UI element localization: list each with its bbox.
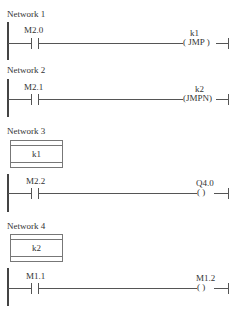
network-4-contact-left-bar bbox=[31, 283, 32, 294]
network-3-title: Network 3 bbox=[7, 126, 45, 136]
network-4-right-rail bbox=[228, 283, 229, 294]
network-3-contact-left-bar bbox=[31, 188, 32, 199]
network-2-contact-left-bar bbox=[31, 94, 32, 105]
network-2-wire bbox=[39, 99, 183, 100]
network-4-wire bbox=[39, 288, 197, 289]
network-2-right-rail bbox=[228, 94, 229, 105]
network-1-jmp-coil: ( JMP ) bbox=[183, 37, 210, 47]
network-2-jmpn-coil: (JMPN) bbox=[183, 93, 212, 103]
network-1-wire bbox=[216, 43, 228, 44]
network-4-jump-label-box: k2 bbox=[10, 234, 63, 262]
network-4-left-rail bbox=[7, 268, 9, 306]
network-3-jump-label-box: k1 bbox=[10, 140, 63, 168]
network-2-wire bbox=[8, 99, 31, 100]
network-4-output-coil: ( ) bbox=[197, 282, 205, 292]
network-3-contact-address: M2.2 bbox=[26, 176, 45, 186]
network-1-left-rail bbox=[7, 22, 9, 60]
network-3-wire bbox=[39, 193, 197, 194]
network-2-wire bbox=[216, 99, 228, 100]
network-4-wire bbox=[8, 288, 31, 289]
network-3-wire bbox=[8, 193, 31, 194]
network-3-wire bbox=[214, 193, 228, 194]
network-2-title: Network 2 bbox=[7, 65, 45, 75]
network-1-contact-address: M2.0 bbox=[24, 25, 43, 35]
network-2-contact-address: M2.1 bbox=[24, 82, 43, 92]
network-3-right-rail bbox=[228, 188, 229, 199]
network-1-right-rail bbox=[228, 38, 229, 49]
network-3-output-coil: ( ) bbox=[197, 187, 205, 197]
network-4-contact-address: M1.1 bbox=[26, 271, 45, 281]
network-4-jump-label: k2 bbox=[11, 243, 62, 253]
network-1-title: Network 1 bbox=[7, 9, 45, 19]
network-1-wire bbox=[8, 43, 31, 44]
network-1-wire bbox=[39, 43, 183, 44]
network-3-jump-label: k1 bbox=[11, 149, 62, 159]
network-4-title: Network 4 bbox=[7, 221, 45, 231]
network-1-contact-left-bar bbox=[31, 38, 32, 49]
network-2-left-rail bbox=[7, 79, 9, 117]
network-4-wire bbox=[214, 288, 228, 289]
